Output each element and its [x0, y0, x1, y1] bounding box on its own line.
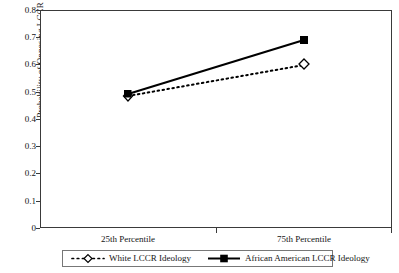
series-african-american-lccr-ideology [124, 36, 308, 98]
chart-legend: White LCCR Ideology African American LCC… [62, 250, 333, 267]
series-white-lccr-ideology [123, 59, 309, 101]
chart-figure: Probability of Opposing LCCR 0.8 0.7 0.6… [0, 0, 399, 273]
x-tick-mark-right [391, 228, 392, 233]
marker-filled-square-25th [124, 90, 132, 98]
x-tick-label-25th-percentile: 25th Percentile [58, 234, 198, 245]
marker-filled-square-75th [300, 36, 308, 44]
series-layer [0, 0, 399, 273]
x-tick-mark-center [216, 228, 217, 233]
legend-item-white-lccr-ideology[interactable]: White LCCR Ideology [63, 251, 191, 266]
legend-swatch-dotted-open-diamond-icon [71, 253, 105, 264]
legend-swatch-solid-filled-square-icon [207, 253, 241, 264]
series-aa-line [128, 40, 304, 94]
series-white-line [128, 65, 304, 96]
legend-label-white-lccr-ideology: White LCCR Ideology [109, 253, 191, 264]
marker-open-diamond-75th [299, 59, 309, 69]
x-tick-label-75th-percentile: 75th Percentile [234, 234, 374, 245]
legend-item-african-american-lccr-ideology[interactable]: African American LCCR Ideology [191, 251, 370, 266]
legend-label-african-american-lccr-ideology: African American LCCR Ideology [245, 253, 370, 264]
